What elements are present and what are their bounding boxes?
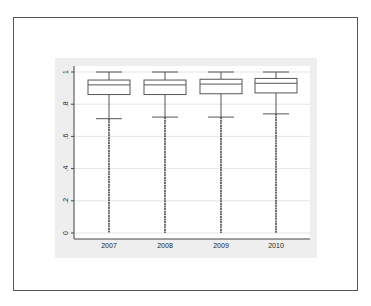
iqr-box — [88, 80, 130, 94]
y-tick-label: .8 — [62, 101, 69, 107]
x-tick-label: 2008 — [157, 242, 173, 249]
x-tick-label: 2007 — [101, 242, 117, 249]
y-tick-label: 1 — [62, 70, 69, 74]
iqr-box — [255, 78, 297, 92]
iqr-box — [200, 79, 242, 93]
iqr-box — [144, 80, 186, 94]
y-tick-label: 0 — [62, 231, 69, 235]
x-tick-label: 2009 — [213, 242, 229, 249]
y-tick-label: .4 — [62, 166, 69, 172]
y-tick-label: .2 — [62, 198, 69, 204]
y-tick-label: .6 — [62, 133, 69, 139]
x-tick-label: 2010 — [268, 242, 284, 249]
box-plot-chart: 0.2.4.6.812007200820092010 — [0, 0, 371, 306]
